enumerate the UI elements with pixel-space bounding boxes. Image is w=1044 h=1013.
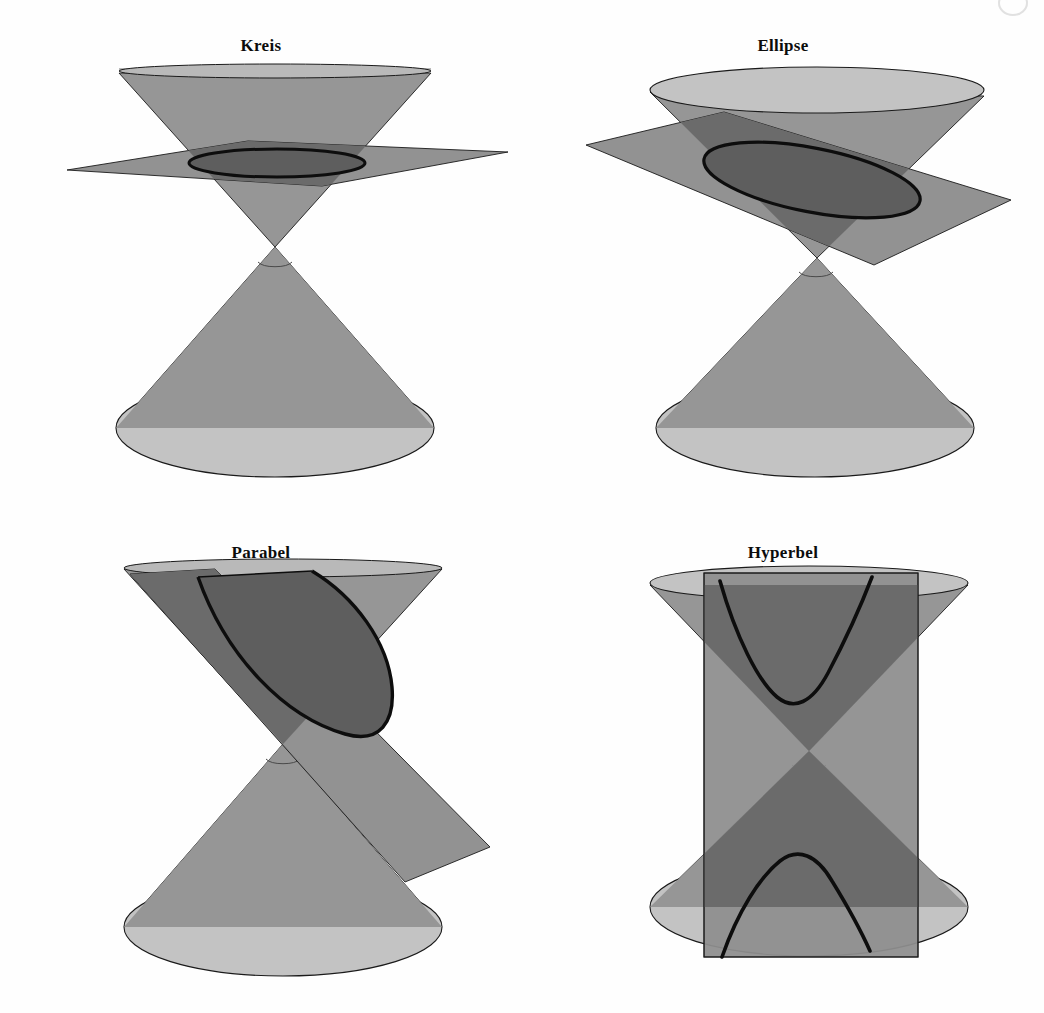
conic-section-diagram-hyperbel [522, 507, 1044, 1013]
conic-section-diagram-ellipse [522, 0, 1044, 506]
panel-hyperbel: Hyperbel [522, 507, 1044, 1013]
panel-kreis: Kreis [0, 0, 522, 506]
panel-ellipse: Ellipse [522, 0, 1044, 506]
lower-cone-kreis [116, 247, 434, 477]
section-curve-kreis [189, 149, 365, 177]
conic-section-diagram-kreis [0, 0, 522, 506]
panel-parabel: Parabel [0, 507, 522, 1013]
conic-section-diagram-parabel [0, 507, 522, 1013]
lower-cone-ellipse [656, 258, 974, 477]
figure-sheet: Kreis [0, 0, 1044, 1013]
